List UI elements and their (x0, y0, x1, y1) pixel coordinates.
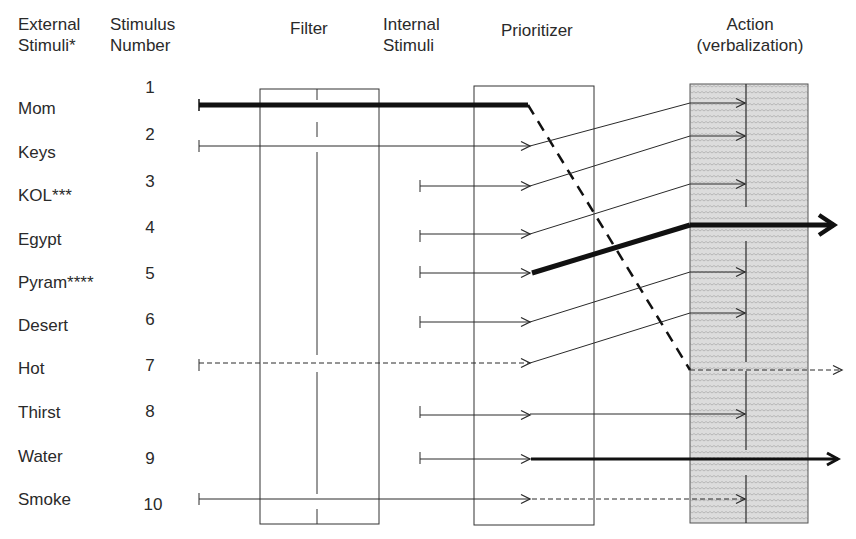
flow-smoke (199, 493, 745, 505)
flow-diagram (0, 0, 856, 539)
filter-box (260, 89, 379, 524)
action-box (690, 84, 808, 523)
